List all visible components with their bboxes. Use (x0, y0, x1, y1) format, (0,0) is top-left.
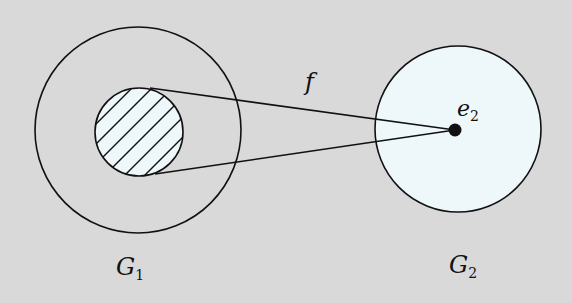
f-label: f (305, 70, 314, 94)
g2-label: G2 (449, 253, 477, 280)
g1-label: G1 (116, 255, 144, 282)
diagram-svg (0, 0, 572, 303)
diagram-canvas: f e2 G1 G2 (0, 0, 572, 303)
e2-point (449, 124, 462, 137)
e2-label: e2 (457, 98, 479, 123)
hatched-subset (40, 40, 250, 250)
